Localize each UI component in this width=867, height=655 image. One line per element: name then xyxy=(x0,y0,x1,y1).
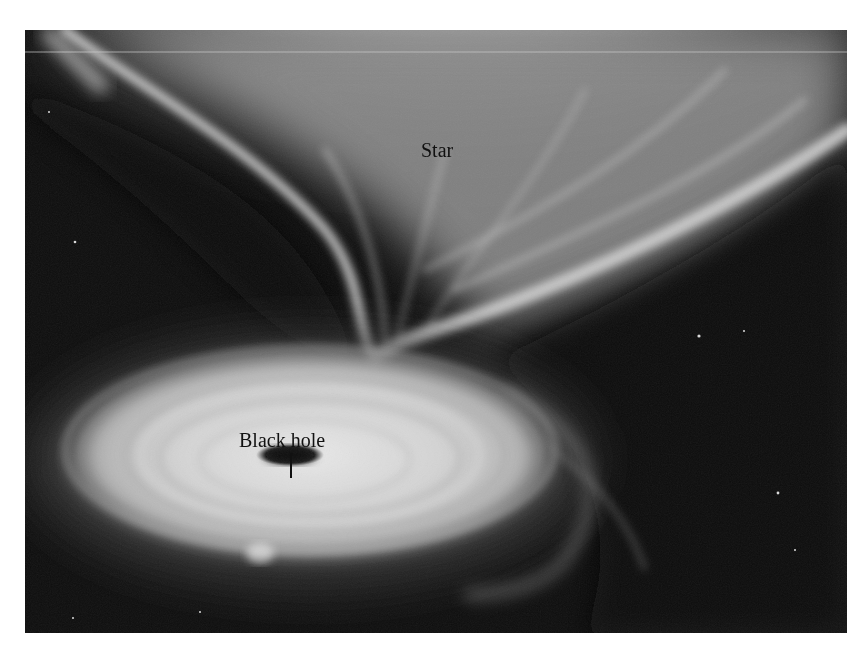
black-hole-label: Black hole xyxy=(239,430,325,450)
star-label: Star xyxy=(421,140,453,160)
black-hole-leader-line xyxy=(290,453,292,478)
black-hole-illustration: Star Black hole xyxy=(25,30,847,633)
scene-artwork xyxy=(25,30,847,633)
